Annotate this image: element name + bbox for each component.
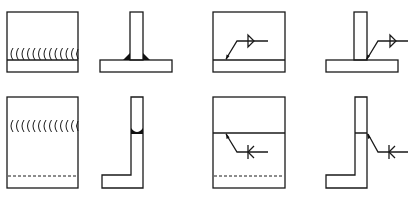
top-right-plan-view: [213, 12, 285, 72]
top-left-t-joint-section: [100, 12, 172, 72]
welding-symbols-diagram: [0, 0, 414, 200]
fillet-weld-right: [143, 53, 150, 60]
bottom-right-plan-view: [213, 97, 285, 188]
weld-symbol-leader: [366, 35, 408, 60]
bottom-left-plan-view: [7, 97, 78, 188]
fillet-weld-left: [123, 53, 130, 60]
weld-symbol-leader: [367, 133, 408, 159]
groove-weld-fill: [131, 128, 143, 134]
top-left-plan-view: [7, 12, 78, 72]
weld-bead-arcs: [11, 48, 78, 60]
weld-symbol-leader: [226, 35, 268, 60]
bottom-left-l-joint-section: [102, 97, 143, 188]
weld-symbol-leader: [226, 133, 268, 159]
weld-bead-arcs: [11, 120, 78, 132]
bottom-right-l-joint-section: [326, 97, 408, 188]
top-right-t-joint-section: [326, 12, 408, 72]
